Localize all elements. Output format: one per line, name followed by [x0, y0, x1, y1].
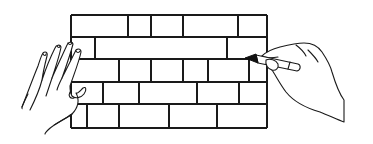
brick-wall [71, 15, 267, 128]
hand-holding-marker-icon [262, 43, 344, 122]
brick-wall-illustration [0, 0, 373, 144]
illustration-canvas: Line drawing of a brick wall; a left han… [0, 0, 373, 144]
open-hand-icon [20, 42, 86, 144]
